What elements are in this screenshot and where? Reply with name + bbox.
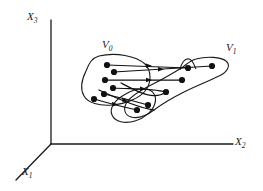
x3-axis-label-text: X xyxy=(27,10,34,22)
target-point xyxy=(179,77,185,83)
v1-set-label-text: V xyxy=(226,41,233,53)
source-point xyxy=(101,91,107,97)
source-point xyxy=(110,85,116,91)
x2-axis-label: X2 xyxy=(235,136,245,150)
set-outlines-group xyxy=(82,54,229,122)
x1-axis-label-subscript: 1 xyxy=(29,171,33,180)
target-point xyxy=(163,89,169,95)
x1-axis-label: X1 xyxy=(22,166,32,180)
source-point xyxy=(111,69,117,75)
source-point xyxy=(102,77,108,83)
source-point xyxy=(104,62,110,68)
figure-canvas: X3 X2 X1 V0 V1 xyxy=(0,0,263,191)
target-point xyxy=(209,63,215,69)
source-point xyxy=(91,96,97,102)
v0-set-label-text: V xyxy=(102,38,109,50)
target-point xyxy=(185,65,191,71)
x3-axis-label-subscript: 3 xyxy=(34,16,38,25)
target-point xyxy=(145,102,151,108)
arrowhead-icon-0 xyxy=(146,63,152,68)
diagram-svg xyxy=(0,0,263,191)
x2-axis-label-subscript: 2 xyxy=(242,141,246,150)
v1-set-label-subscript: 1 xyxy=(233,47,237,56)
x1-axis-label-text: X xyxy=(22,165,29,177)
arrowhead-icon-2 xyxy=(146,78,152,83)
x2-axis-label-text: X xyxy=(235,135,242,147)
target-point xyxy=(134,107,140,113)
x3-axis-label: X3 xyxy=(27,11,37,25)
v0-set-label-subscript: 0 xyxy=(109,44,113,53)
v1-set-label: V1 xyxy=(226,42,236,56)
v0-set-label: V0 xyxy=(102,39,112,53)
